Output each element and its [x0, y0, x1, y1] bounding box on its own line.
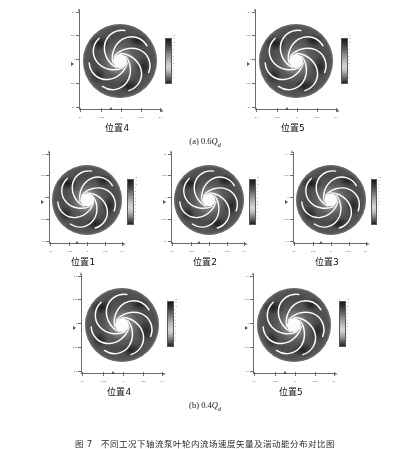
colorbar-value: 0 — [175, 339, 177, 341]
x-tick-label: 0.1 — [121, 250, 124, 253]
x-tick-label: 0 — [330, 250, 331, 253]
axes: 0.1 0.05 0 -0.05 -0.1 -0.1 -0.05 0 0.05 … — [233, 272, 337, 384]
colorbar-value: 0 — [378, 217, 380, 219]
x-tick-label: -0.1 — [254, 116, 258, 119]
colorbar-value: 7 — [175, 315, 177, 317]
x-origin-marker-icon — [283, 371, 287, 374]
y-tick-label: 0 — [288, 195, 289, 198]
colorbar-value: 10 — [257, 183, 259, 185]
colorbar-value: 0 — [257, 217, 259, 219]
colorbar-value: 10 — [173, 41, 175, 43]
subcaption-subscript: d — [218, 405, 221, 411]
figure-caption: 图 7 不同工况下轴流泵叶轮内流场速度矢量及湍动能分布对比图 — [0, 440, 410, 449]
axes: 0.1 0.05 0 -0.05 -0.1 -0.1 -0.05 0 0.05 … — [151, 150, 247, 254]
plot-panel: 0.1 0.05 0 -0.05 -0.1 -0.1 -0.05 0 0.05 … — [235, 8, 351, 134]
x-tick-label: -0.05 — [272, 380, 277, 383]
colorbar: v 12 11 10 9 8 7 6 5 4 3 2 — [249, 176, 259, 226]
colorbar-value: 10 — [378, 183, 380, 185]
colorbar-tick-labels: 12 11 10 9 8 7 6 5 4 3 2 1 0 — [257, 176, 259, 220]
colorbar-value: 1 — [349, 72, 351, 74]
colorbar-value: 3 — [378, 207, 380, 209]
impeller-contour-plot — [296, 165, 366, 235]
colorbar-value: 11 — [347, 301, 349, 303]
y-tick-label: 0.1 — [164, 152, 167, 155]
x-tick-label: -0.1 — [48, 250, 52, 253]
colorbar-value: 1 — [135, 214, 137, 216]
colorbar-value: 11 — [349, 37, 351, 39]
colorbar-value: 4 — [347, 325, 349, 327]
y-axis-arrow-icon — [78, 8, 80, 11]
plot-panel: 0.1 0.05 0 -0.05 -0.1 -0.1 -0.05 0 0.05 … — [29, 150, 137, 268]
y-axis-arrow-icon — [170, 150, 172, 153]
colorbar-value: 0 — [347, 339, 349, 341]
colorbar-value: 6 — [347, 319, 349, 321]
impeller-contour-plot — [259, 24, 333, 98]
colorbar: v 12 11 10 9 8 7 6 5 4 3 2 — [339, 298, 349, 348]
impeller-hub — [289, 54, 303, 68]
colorbar-value: 3 — [175, 329, 177, 331]
x-tick-label: 0.1 — [332, 380, 335, 383]
x-axis-arrow-icon — [123, 243, 126, 245]
colorbar-value: 12 — [347, 298, 349, 300]
plot-area: 0.1 0.05 0 -0.05 -0.1 -0.1 -0.05 0 0.05 … — [273, 150, 381, 254]
x-origin-marker-icon — [197, 241, 201, 244]
colorbar-tick-labels: 12 11 10 9 8 7 6 5 4 3 2 1 0 — [173, 34, 175, 78]
colorbar-value: 0 — [349, 76, 351, 78]
colorbar-value: 6 — [173, 55, 175, 57]
impeller-contour-plot — [174, 165, 244, 235]
colorbar-tick-labels: 12 11 10 9 8 7 6 5 4 3 2 1 0 — [378, 176, 380, 220]
y-tick-label: -0.05 — [162, 217, 167, 220]
axes: 0.1 0.05 0 -0.05 -0.1 -0.1 -0.05 0 0.05 … — [59, 8, 163, 120]
y-tick-label: 0.05 — [41, 173, 46, 176]
colorbar-value: 10 — [175, 305, 177, 307]
colorbar-gradient — [339, 301, 346, 347]
x-tick-label: 0 — [121, 116, 122, 119]
colorbar-value: 8 — [173, 48, 175, 50]
x-tick-label: 0.05 — [315, 116, 320, 119]
x-tick-label: 0 — [296, 116, 297, 119]
x-tick-label: -0.05 — [99, 116, 104, 119]
colorbar-value: 3 — [349, 65, 351, 67]
colorbar-value: 9 — [135, 186, 137, 188]
x-tick-label: 0 — [294, 380, 295, 383]
colorbar-value: 11 — [173, 37, 175, 39]
y-tick-label: -0.1 — [71, 106, 75, 109]
colorbar-value: 7 — [378, 193, 380, 195]
x-tick-label: 0.05 — [103, 250, 108, 253]
y-tick-label: -0.05 — [70, 82, 75, 85]
impeller-contour-plot — [85, 288, 159, 362]
y-origin-marker-icon — [71, 62, 74, 66]
x-tick-label: -0.1 — [292, 250, 296, 253]
axes: 0.1 0.05 0 -0.05 -0.1 -0.1 -0.05 0 0.05 … — [235, 8, 339, 120]
subfigure-caption-b: (b) 0.4Qd — [189, 400, 221, 412]
y-tick-label: 0.05 — [244, 297, 249, 300]
impeller-hub — [115, 318, 129, 332]
x-tick-label: 0.05 — [313, 380, 318, 383]
subfigure-caption-a: (a) 0.6Qd — [189, 136, 220, 148]
impeller-contour-plot — [52, 165, 122, 235]
colorbar-value: 4 — [175, 325, 177, 327]
plot-panel: 0.1 0.05 0 -0.05 -0.1 -0.1 -0.05 0 0.05 … — [273, 150, 381, 268]
colorbar: v 12 11 10 9 8 7 6 5 4 3 2 — [371, 176, 381, 226]
y-origin-marker-icon — [285, 200, 288, 204]
colorbar-value: 9 — [347, 308, 349, 310]
colorbar-value: 1 — [347, 336, 349, 338]
y-tick-label: 0.1 — [72, 11, 75, 14]
x-tick-label: -0.1 — [80, 380, 84, 383]
colorbar-value: 12 — [175, 298, 177, 300]
y-tick-label: 0.1 — [248, 11, 251, 14]
colorbar-tick-labels: 12 11 10 9 8 7 6 5 4 3 2 1 0 — [135, 176, 137, 220]
colorbar-value: 5 — [135, 200, 137, 202]
colorbar-value: 4 — [349, 62, 351, 64]
colorbar-gradient — [249, 179, 256, 225]
x-tick-label: 0.05 — [139, 116, 144, 119]
x-tick-label: -0.05 — [310, 250, 315, 253]
y-tick-label: 0.05 — [163, 173, 168, 176]
y-tick-label: 0 — [44, 195, 45, 198]
plot-panel: 0.1 0.05 0 -0.05 -0.1 -0.1 -0.05 0 0.05 … — [151, 150, 259, 268]
y-tick-label: -0.1 — [163, 239, 167, 242]
x-tick-label: -0.05 — [188, 250, 193, 253]
colorbar-value: 3 — [135, 207, 137, 209]
x-tick-label: 0.1 — [161, 380, 164, 383]
y-axis-arrow-icon — [252, 272, 254, 275]
